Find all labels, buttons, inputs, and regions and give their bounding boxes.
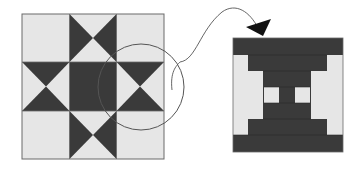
center-left-square (264, 87, 279, 103)
outer-right-strip (327, 55, 343, 135)
inner-left-strip (248, 71, 263, 119)
magnified-block-detail (233, 38, 343, 152)
quilt-diagram (0, 0, 360, 174)
inner-right-strip (311, 71, 327, 119)
star-quilt-block (22, 14, 164, 159)
center-right-square (295, 87, 310, 103)
arrowhead-icon (246, 19, 271, 36)
center-square (70, 62, 117, 111)
outer-left-strip (233, 55, 248, 135)
